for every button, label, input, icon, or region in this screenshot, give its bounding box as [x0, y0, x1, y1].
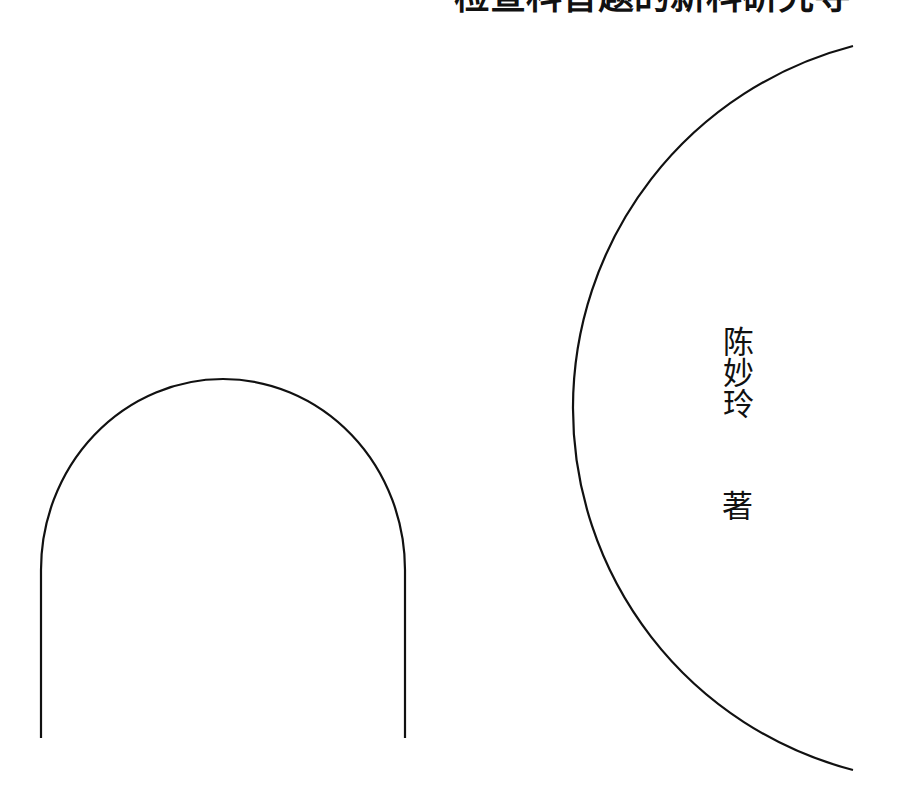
cover-decoration: [0, 0, 904, 811]
arch-shape: [41, 379, 405, 738]
author-name: 陈妙玲: [712, 326, 752, 419]
author-role: 著: [722, 490, 753, 523]
